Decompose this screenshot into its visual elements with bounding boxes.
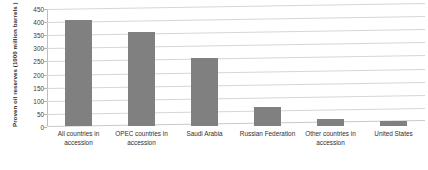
bar — [254, 107, 281, 126]
x-axis-category-label: OPEC countries in accession — [111, 130, 172, 147]
bar — [65, 20, 92, 126]
y-axis-tick-mark — [44, 61, 47, 62]
y-axis-tick-mark — [44, 48, 47, 49]
y-axis-tick-mark — [44, 114, 47, 115]
bar-chart-figure: Proven oil reserves (1000 million barrel… — [0, 0, 428, 170]
y-axis-tick-mark — [44, 88, 47, 89]
y-axis-tick-label: 150 — [33, 84, 44, 91]
y-axis-tick-label: 300 — [33, 45, 44, 52]
x-axis-category-label: Other countries in accession — [300, 130, 361, 147]
x-axis-category-label: All countries in accession — [48, 130, 109, 147]
y-axis-tick-mark — [44, 22, 47, 23]
y-axis-tick-label: 350 — [33, 32, 44, 39]
x-axis-category-label: United States — [363, 130, 424, 139]
y-axis-tick-label: 100 — [33, 97, 44, 104]
y-axis-tick-mark — [44, 35, 47, 36]
bar — [191, 58, 218, 126]
y-axis-tick-mark — [44, 127, 47, 128]
y-axis-tick-label: 400 — [33, 19, 44, 26]
y-axis-title: Proven oil reserves (1000 million barrel… — [2, 0, 26, 130]
bars-layer — [47, 9, 425, 127]
x-axis-category-label: Saudi Arabia — [174, 130, 235, 139]
y-axis-tick-mark — [44, 75, 47, 76]
bar — [380, 121, 407, 126]
y-axis-tick-label: 50 — [37, 110, 44, 117]
y-axis-tick-label: 450 — [33, 6, 44, 13]
y-axis-tick-label: 200 — [33, 71, 44, 78]
bar — [128, 32, 155, 126]
y-axis-title-text: Proven oil reserves (1000 million barrel… — [10, 3, 18, 128]
x-axis-category-labels: All countries in accessionOPEC countries… — [47, 130, 425, 162]
y-axis-tick-mark — [44, 9, 47, 10]
y-axis-tick-label: 250 — [33, 58, 44, 65]
y-axis-tick-labels: 450400350300250200150100500 — [24, 9, 46, 127]
x-axis-category-label: Russian Federation — [237, 130, 298, 139]
y-axis-tick-mark — [44, 101, 47, 102]
plot-area — [47, 9, 425, 127]
bar — [317, 119, 344, 126]
